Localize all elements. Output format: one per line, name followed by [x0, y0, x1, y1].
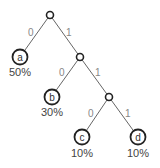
bit-label-n3-d: 1	[125, 108, 131, 119]
internal-node-2	[77, 54, 84, 61]
leaf-symbol-a: a	[17, 52, 23, 63]
internal-node-root	[47, 12, 54, 19]
bit-label-root-a: 0	[28, 27, 34, 38]
bit-label-root-n2: 1	[66, 27, 72, 38]
edge-root-n2	[50, 15, 80, 57]
leaf-probability-d: 10%	[127, 147, 149, 159]
leaf-probability-c: 10%	[71, 147, 93, 159]
leaf-symbol-d: d	[135, 132, 141, 143]
bit-label-n3-c: 0	[88, 108, 94, 119]
leaf-node-a: a 50%	[9, 50, 31, 79]
leaf-node-b: b 30%	[41, 90, 63, 119]
huffman-tree-diagram: 0 1 0 1 0 1 a 50% b 30% c 10% d 10%	[0, 0, 160, 168]
leaf-node-d: d 10%	[127, 130, 149, 160]
leaf-node-c: c 10%	[71, 130, 93, 160]
bit-label-n2-n3: 1	[95, 67, 101, 78]
leaf-symbol-c: c	[80, 132, 85, 143]
internal-node-3	[106, 94, 113, 101]
leaf-symbol-b: b	[49, 92, 55, 103]
leaf-probability-b: 30%	[41, 106, 63, 118]
bit-label-n2-b: 0	[59, 67, 65, 78]
leaf-probability-a: 50%	[9, 66, 31, 78]
